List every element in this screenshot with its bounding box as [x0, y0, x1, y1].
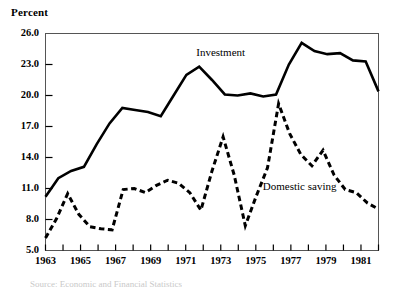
- y-axis-tick-label: 8.0: [5, 213, 39, 224]
- plot-area: [0, 0, 395, 287]
- x-axis-tick-label: 1971: [166, 255, 206, 266]
- series-line-domestic-saving: [46, 104, 379, 238]
- source-footnote: Source: Economic and Financial Statistic…: [30, 279, 182, 287]
- series-label-investment: Investment: [196, 46, 245, 58]
- x-axis-tick-label: 1975: [236, 255, 276, 266]
- y-axis-tick-label: 11.0: [5, 182, 39, 193]
- plot-frame: [46, 34, 379, 251]
- x-axis-tick-label: 1967: [96, 255, 136, 266]
- x-axis-tick-label: 1973: [201, 255, 241, 266]
- series-label-domestic-saving: Domestic saving: [263, 180, 337, 192]
- x-axis-tick-label: 1965: [61, 255, 101, 266]
- x-axis-tick-label: 1969: [131, 255, 171, 266]
- y-axis-tick-label: 23.0: [5, 58, 39, 69]
- x-axis-tick-label: 1981: [341, 255, 381, 266]
- y-axis-tick-label: 17.0: [5, 120, 39, 131]
- x-axis-tick-label: 1979: [306, 255, 346, 266]
- y-axis-tick-label: 14.0: [5, 151, 39, 162]
- chart-figure: Percent 26.023.020.017.014.011.08.05.019…: [0, 0, 395, 287]
- x-axis-tick-label: 1977: [271, 255, 311, 266]
- y-axis-tick-label: 26.0: [5, 27, 39, 38]
- y-axis-tick-label: 5.0: [5, 244, 39, 255]
- series-line-investment: [46, 43, 379, 197]
- x-axis-tick-label: 1963: [26, 255, 66, 266]
- y-axis-tick-label: 20.0: [5, 89, 39, 100]
